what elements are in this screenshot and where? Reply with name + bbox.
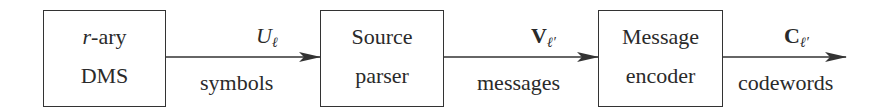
block-rary-dms: r-ary DMS bbox=[43, 10, 166, 107]
edge-label-symbols: symbols bbox=[200, 72, 273, 94]
block-source-parser: Source parser bbox=[320, 10, 444, 107]
symbol-subscript: ℓ′ bbox=[547, 35, 556, 50]
symbol-base: U bbox=[256, 23, 272, 48]
block-source-parser-line2: parser bbox=[321, 65, 443, 87]
edge-symbol-u: Uℓ bbox=[256, 25, 278, 54]
symbol-subscript: ℓ bbox=[272, 35, 278, 50]
block-rary-dms-line1: r-ary bbox=[44, 26, 165, 48]
symbol-base: C bbox=[784, 23, 800, 48]
r-variable: r bbox=[83, 24, 92, 49]
edge-label-codewords: codewords bbox=[738, 72, 833, 94]
edge-symbol-c: Cℓ′ bbox=[784, 25, 809, 54]
block-message-encoder-line1: Message bbox=[599, 26, 722, 48]
block-source-parser-line1: Source bbox=[321, 26, 443, 48]
ary-text: -ary bbox=[91, 24, 126, 49]
edge-symbol-v: Vℓ′ bbox=[531, 25, 556, 54]
symbol-subscript: ℓ′ bbox=[800, 35, 809, 50]
block-rary-dms-line2: DMS bbox=[44, 65, 165, 87]
symbol-base: V bbox=[531, 23, 547, 48]
edge-label-messages: messages bbox=[477, 72, 560, 94]
block-message-encoder: Message encoder bbox=[598, 10, 723, 107]
block-message-encoder-line2: encoder bbox=[599, 65, 722, 87]
